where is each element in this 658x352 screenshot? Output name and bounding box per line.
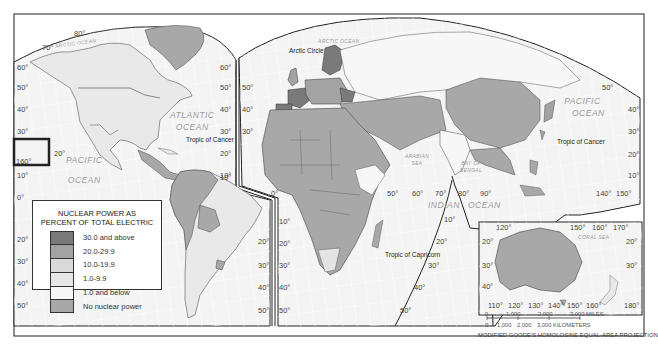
lat-label: 40° xyxy=(220,106,231,114)
lat-label: 40° xyxy=(17,280,28,288)
tropic-of-cancer-right-label: Tropic of Cancer xyxy=(557,138,605,145)
lat-label: 20° xyxy=(258,238,269,246)
lat-label: 40° xyxy=(17,106,28,114)
legend-item-30-above: 30.0 and above xyxy=(50,231,161,245)
lat-label: 20° xyxy=(279,240,290,248)
hawaii-lat-label: 20° xyxy=(54,150,65,158)
lon-label: 50° xyxy=(387,190,398,198)
lat-label: 10° xyxy=(17,172,28,180)
inset-lon-label: 150° xyxy=(567,302,583,310)
lat-label: 60° xyxy=(220,64,231,72)
lat-label: 50° xyxy=(17,302,28,310)
lat-label: 20° xyxy=(628,151,639,159)
scale-miles-0: 0 xyxy=(485,311,488,317)
legend-swatch xyxy=(50,272,74,286)
lat-label: 50° xyxy=(258,307,269,315)
lat-label: 40° xyxy=(258,284,269,292)
legend-swatch xyxy=(50,244,74,258)
arabian-sea-label: ARABIANSEA xyxy=(405,153,429,167)
lon-label: 60° xyxy=(412,190,423,198)
inset-lat-label: 20° xyxy=(626,238,637,246)
inset-lat-label: 40° xyxy=(482,283,493,291)
legend-item-1-9: 1.0-9.9 xyxy=(50,272,161,286)
pacific-ocean-right-label: PACIFICOCEAN xyxy=(560,96,605,120)
lon-label: 0° xyxy=(271,190,278,198)
lat-label: 50° xyxy=(220,84,231,92)
inset-lon-label: 160° xyxy=(586,302,602,310)
scale-miles-3000: 3,000 MILES xyxy=(570,311,604,317)
lat-label: 30° xyxy=(242,128,253,136)
lat-label: 40° xyxy=(279,284,290,292)
lat-label: 30° xyxy=(220,128,231,136)
inset-lat-label: 20° xyxy=(482,238,493,246)
scale-miles-2000: 2,000 xyxy=(538,311,553,317)
legend-swatch xyxy=(50,299,74,313)
lat-label: 50° xyxy=(17,84,28,92)
legend-item-20-29: 20.0-29.9 xyxy=(50,244,161,258)
lat-label: 0° xyxy=(17,194,24,202)
lat-label: 30° xyxy=(279,262,290,270)
lat-label: 20° xyxy=(220,150,231,158)
lon-label: 90° xyxy=(480,190,491,198)
legend-title: NUCLEAR POWER AS PERCENT OF TOTAL ELECTR… xyxy=(33,209,161,228)
inset-lon-label: 120° xyxy=(496,224,512,232)
inset-lon-label: 140° xyxy=(548,302,564,310)
lat-label: 30° xyxy=(628,128,639,136)
inset-lon-label: 150° xyxy=(570,224,586,232)
legend-swatch xyxy=(50,231,74,245)
lat-label: 60° xyxy=(17,64,28,72)
lon-label: 140° xyxy=(596,190,612,198)
legend-item-below-1: 1.0 and below xyxy=(50,286,161,300)
lon-label: 70° xyxy=(435,190,446,198)
indian-ocean-label: INDIAN xyxy=(428,200,460,212)
lon-label: 150° xyxy=(616,190,632,198)
lat-label: 40° xyxy=(628,106,639,114)
legend: NUCLEAR POWER AS PERCENT OF TOTAL ELECTR… xyxy=(32,200,162,290)
tropic-of-capricorn-label: Tropic of Capricorn xyxy=(385,251,440,258)
lon-label: 70° xyxy=(42,44,53,52)
lat-label: 20° xyxy=(436,238,447,246)
lat-label: 10° xyxy=(220,174,231,182)
scale-km-1000: 1,000 xyxy=(497,322,512,328)
inset-lat-label: 30° xyxy=(482,262,493,270)
scale-km-0: 0 xyxy=(485,322,488,328)
inset-lon-label: 120° xyxy=(508,302,524,310)
pacific-ocean-left-label: PACIFICOCEAN xyxy=(66,155,102,187)
arctic-ocean-right-label: ARCTIC OCEAN xyxy=(318,38,359,45)
lat-label: 10° xyxy=(628,172,639,180)
coral-sea-label: CORAL SEA xyxy=(578,234,609,241)
lat-label: 10° xyxy=(279,218,290,226)
tropic-of-cancer-left-label: Tropic of Cancer xyxy=(186,136,234,143)
scale-miles-1000: 1,000 xyxy=(506,311,521,317)
inset-lon-label: 110° xyxy=(488,302,503,310)
legend-swatch xyxy=(50,258,74,272)
lat-label: 40° xyxy=(414,284,425,292)
lat-label: 30° xyxy=(258,262,269,270)
lat-label: 40° xyxy=(242,106,253,114)
lat-label: 50° xyxy=(279,307,290,315)
bay-of-bengal-label: BAY OFBENGAL xyxy=(460,160,482,174)
lat-label: 30° xyxy=(428,262,439,270)
lat-label: 50° xyxy=(242,84,253,92)
lat-label: 30° xyxy=(17,128,28,136)
lat-label: 50° xyxy=(400,307,411,315)
projection-label: MODIFIED GOODE'S HOMOLOSINE EQUAL-AREA P… xyxy=(478,332,658,338)
lon-label: 80° xyxy=(458,190,469,198)
scale-km-3000: 3,000 KILOMETERS xyxy=(537,322,590,328)
inset-lon-label: 160° xyxy=(592,224,608,232)
inset-lon-label: 170° xyxy=(613,224,629,232)
legend-item-10-19: 10.0-19.9 xyxy=(50,258,161,272)
arctic-circle-label: Arctic Circle xyxy=(289,47,324,54)
legend-swatch xyxy=(50,286,74,300)
lon-label: 80° xyxy=(74,30,85,38)
lat-label: 20° xyxy=(17,236,28,244)
hawaii-lon-label: 160° xyxy=(16,158,32,166)
inset-lon-label: 180° xyxy=(624,302,640,310)
legend-item-no-nuclear: No nuclear power xyxy=(50,299,161,313)
lat-label: 50° xyxy=(602,84,613,92)
lat-label: 10° xyxy=(444,216,455,224)
inset-lon-label: 130° xyxy=(528,302,544,310)
atlantic-ocean-label: ATLANTICOCEAN xyxy=(170,110,214,134)
scale-km-2000: 2,000 xyxy=(517,322,532,328)
lat-label: 30° xyxy=(17,258,28,266)
